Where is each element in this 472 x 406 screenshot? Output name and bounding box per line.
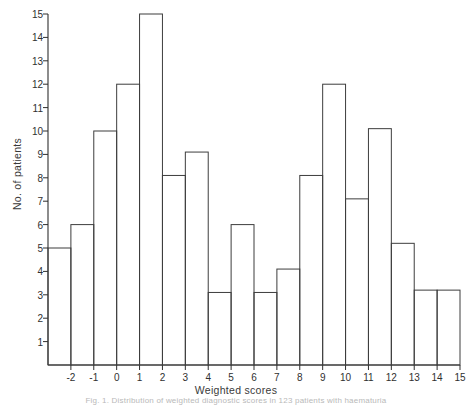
x-tick-label: 14 bbox=[432, 372, 443, 383]
histogram-bar bbox=[300, 175, 323, 365]
histogram-bar bbox=[71, 225, 94, 365]
histogram-bar bbox=[437, 290, 460, 365]
histogram-bar bbox=[277, 269, 300, 365]
histogram-bar bbox=[162, 175, 185, 365]
x-tick-label: 4 bbox=[205, 372, 211, 383]
y-tick-label: 4 bbox=[37, 266, 48, 277]
x-tick-label: 2 bbox=[160, 372, 166, 383]
histogram-bar bbox=[254, 292, 277, 365]
histogram-figure: No. of patients Weighted scores Fig. 1. … bbox=[0, 0, 472, 406]
histogram-bar bbox=[368, 129, 391, 365]
histogram-bar bbox=[323, 84, 346, 365]
y-tick-label: 14 bbox=[32, 32, 48, 43]
y-tick-label: 8 bbox=[37, 172, 48, 183]
x-tick-label: -2 bbox=[66, 372, 75, 383]
histogram-bar bbox=[48, 248, 71, 365]
histogram-bar bbox=[391, 243, 414, 365]
y-tick-label: 6 bbox=[37, 219, 48, 230]
y-tick-label: 11 bbox=[33, 102, 48, 113]
histogram-bar bbox=[94, 131, 117, 365]
x-tick-label: 5 bbox=[228, 372, 234, 383]
y-tick-label: 7 bbox=[37, 196, 48, 207]
y-axis-title: No. of patients bbox=[11, 119, 23, 229]
y-tick-label: 5 bbox=[37, 243, 48, 254]
x-tick-label: -1 bbox=[89, 372, 98, 383]
y-tick-label: 12 bbox=[32, 79, 48, 90]
x-tick-label: 3 bbox=[183, 372, 189, 383]
x-tick-label: 7 bbox=[274, 372, 280, 383]
y-tick-label: 10 bbox=[32, 126, 48, 137]
histogram-bar bbox=[140, 14, 163, 365]
histogram-bar bbox=[117, 84, 140, 365]
histogram-bar bbox=[346, 199, 369, 365]
x-tick-label: 15 bbox=[454, 372, 465, 383]
x-tick-label: 6 bbox=[251, 372, 257, 383]
x-tick-label: 10 bbox=[340, 372, 351, 383]
y-tick-label: 3 bbox=[37, 289, 48, 300]
x-tick-label: 9 bbox=[320, 372, 326, 383]
histogram-bar bbox=[414, 290, 437, 365]
y-tick-label: 15 bbox=[32, 9, 48, 20]
figure-caption: Fig. 1. Distribution of weighted diagnos… bbox=[0, 396, 472, 405]
y-tick-label: 13 bbox=[32, 55, 48, 66]
y-tick-label: 2 bbox=[37, 313, 48, 324]
x-tick-label: 0 bbox=[114, 372, 120, 383]
x-tick-label: 8 bbox=[297, 372, 303, 383]
x-tick-label: 13 bbox=[409, 372, 420, 383]
x-axis-title: Weighted scores bbox=[0, 384, 472, 396]
x-tick-label: 12 bbox=[386, 372, 397, 383]
y-tick-label: 9 bbox=[37, 149, 48, 160]
x-tick-label: 11 bbox=[363, 372, 373, 383]
y-tick-label: 1 bbox=[37, 336, 48, 347]
histogram-bar bbox=[231, 225, 254, 365]
histogram-bar bbox=[185, 152, 208, 365]
x-tick-label: 1 bbox=[137, 372, 143, 383]
chart-plot-area bbox=[0, 0, 472, 406]
histogram-bar bbox=[208, 292, 231, 365]
